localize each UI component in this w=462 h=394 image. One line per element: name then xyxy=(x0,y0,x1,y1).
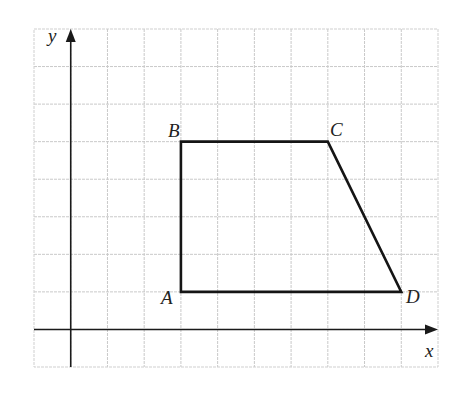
axes xyxy=(34,29,438,367)
vertex-label-c: C xyxy=(330,119,343,140)
grid xyxy=(34,29,438,367)
y-axis-label: y xyxy=(46,25,57,46)
vertex-label-b: B xyxy=(168,120,180,141)
x-axis-arrow-icon xyxy=(425,324,438,334)
y-axis-arrow-icon xyxy=(66,29,76,42)
labels: y x A B C D xyxy=(46,25,434,361)
vertex-label-a: A xyxy=(159,287,173,308)
grid-border xyxy=(34,29,438,367)
x-axis-label: x xyxy=(424,340,434,361)
vertex-label-d: D xyxy=(405,286,420,307)
coordinate-grid-diagram: y x A B C D xyxy=(0,0,462,394)
